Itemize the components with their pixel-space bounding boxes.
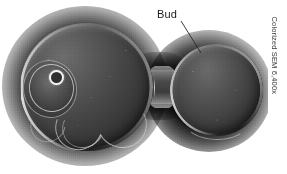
credit-strip: Colorized SEM 6,400x	[268, 0, 286, 174]
yeast-budding-micrograph-figure: Bud Colorized SEM 6,400x	[0, 0, 287, 174]
bud-cell	[170, 44, 263, 136]
bud-scar-pore	[49, 70, 64, 85]
micrograph-plate	[0, 0, 268, 174]
credit-text: Colorized SEM 6,400x	[270, 17, 279, 113]
